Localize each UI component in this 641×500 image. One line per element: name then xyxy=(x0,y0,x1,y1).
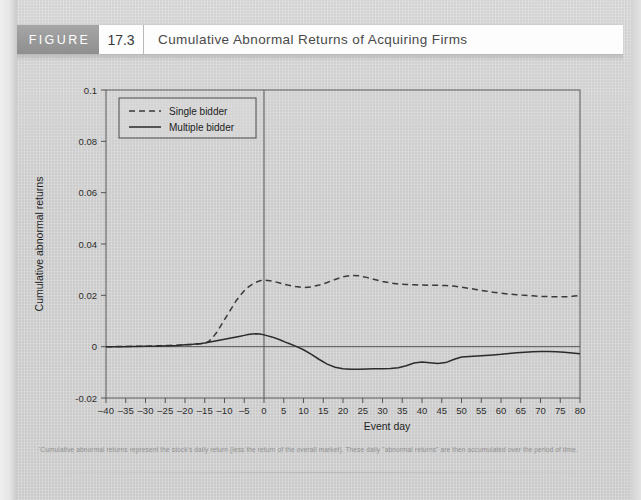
figure-number: 17.3 xyxy=(99,25,144,54)
y-tick-label: 0.02 xyxy=(79,290,98,301)
x-tick-label: 5 xyxy=(281,405,286,416)
series-line-multiple-bidder xyxy=(106,334,580,369)
x-tick-label: –40 xyxy=(98,405,114,416)
x-tick-label: 20 xyxy=(338,405,349,416)
y-tick-label: 0.08 xyxy=(79,136,98,147)
figure-header: FIGURE 17.3 Cumulative Abnormal Returns … xyxy=(17,24,623,54)
figure-title: Cumulative Abnormal Returns of Acquiring… xyxy=(144,25,623,54)
footnote-rule xyxy=(17,472,623,473)
x-tick-label: –20 xyxy=(177,405,193,416)
legend-label-multiple-bidder: Multiple bidder xyxy=(169,122,235,133)
x-tick-label: –25 xyxy=(157,405,173,416)
header-shadow xyxy=(17,54,623,61)
x-tick-label: 35 xyxy=(397,405,408,416)
y-tick-label: 0.04 xyxy=(79,239,98,250)
x-tick-label: 10 xyxy=(298,405,309,416)
x-tick-label: 0 xyxy=(261,405,266,416)
x-tick-label: –5 xyxy=(239,405,250,416)
x-tick-label: –30 xyxy=(138,405,154,416)
chart-container: -0.0200.020.040.060.080.1–40–35–30–25–20… xyxy=(17,61,623,436)
y-tick-label: 0.1 xyxy=(84,85,97,96)
x-tick-label: 55 xyxy=(476,405,487,416)
figure-label: FIGURE xyxy=(17,25,99,54)
x-tick-label: 50 xyxy=(456,405,467,416)
x-tick-label: 65 xyxy=(515,405,526,416)
x-tick-label: 60 xyxy=(496,405,507,416)
x-tick-label: 70 xyxy=(535,405,546,416)
x-tick-label: –10 xyxy=(217,405,233,416)
x-tick-label: 40 xyxy=(417,405,428,416)
legend-label-single-bidder: Single bidder xyxy=(169,106,228,117)
x-axis-label: Event day xyxy=(364,420,411,432)
figure-footnote: 'Cumulative abnormal returns represent t… xyxy=(17,440,623,456)
y-tick-label: -0.02 xyxy=(75,393,97,404)
x-tick-label: 25 xyxy=(357,405,368,416)
page-left-margin xyxy=(0,0,17,500)
x-tick-label: 45 xyxy=(436,405,447,416)
page-right-margin xyxy=(631,0,641,500)
x-tick-label: 30 xyxy=(377,405,388,416)
x-tick-label: –15 xyxy=(197,405,213,416)
y-axis-label: Cumulative abnormal returns xyxy=(33,177,45,312)
y-tick-label: 0.06 xyxy=(79,187,98,198)
series-line-single-bidder xyxy=(106,275,580,346)
x-tick-label: –35 xyxy=(118,405,134,416)
y-tick-label: 0 xyxy=(92,341,97,352)
x-tick-label: 80 xyxy=(575,405,586,416)
cumulative-abnormal-returns-chart: -0.0200.020.040.060.080.1–40–35–30–25–20… xyxy=(17,61,623,436)
x-tick-label: 75 xyxy=(555,405,566,416)
x-tick-label: 15 xyxy=(318,405,329,416)
